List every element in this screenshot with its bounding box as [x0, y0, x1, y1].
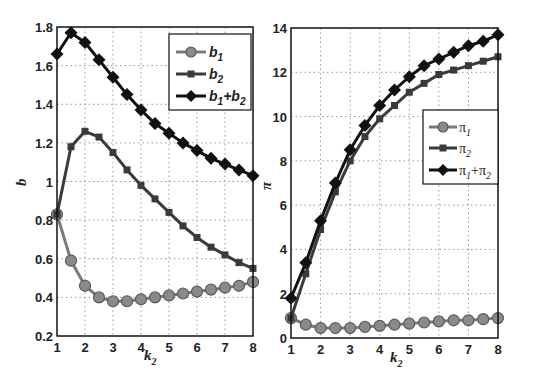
right-tick-labels: 1234567802468101214	[273, 21, 502, 357]
data-point	[447, 46, 460, 59]
x-tick-label: 7	[465, 342, 472, 357]
y-tick-label: 1	[46, 175, 53, 190]
left-x-axis-label: k2	[144, 347, 157, 367]
x-tick-label: 3	[347, 342, 354, 357]
data-point	[234, 280, 245, 291]
x-tick-label: 6	[193, 340, 200, 355]
x-tick-label: 2	[317, 342, 324, 357]
data-point	[180, 222, 187, 229]
data-point	[448, 315, 459, 326]
data-point	[108, 296, 119, 307]
x-tick-label: 1	[53, 340, 60, 355]
data-point	[376, 115, 383, 122]
data-point	[404, 318, 415, 329]
data-point	[82, 128, 89, 135]
data-point	[94, 292, 105, 303]
data-point	[68, 143, 75, 150]
data-point	[233, 163, 246, 176]
data-point	[330, 323, 341, 334]
data-point	[80, 280, 91, 291]
x-tick-label: 2	[81, 340, 88, 355]
data-point	[477, 35, 490, 48]
x-tick-label: 5	[165, 340, 172, 355]
data-point	[192, 286, 203, 297]
data-point	[150, 292, 161, 303]
data-point	[219, 158, 232, 171]
data-point	[206, 284, 217, 295]
y-tick-label: 1.8	[35, 20, 53, 35]
data-point	[463, 315, 474, 326]
data-point	[205, 152, 218, 165]
data-point	[391, 102, 398, 109]
data-point	[462, 39, 475, 52]
data-point	[191, 144, 204, 157]
x-tick-label: 8	[249, 340, 256, 355]
y-tick-label: 2	[280, 287, 287, 302]
x-tick-label: 6	[435, 342, 442, 357]
data-point	[421, 80, 428, 87]
left-chart: 123456780.20.40.60.811.21.41.61.8 b k2 b…	[13, 20, 260, 367]
y-tick-label: 12	[273, 65, 287, 80]
data-point	[361, 133, 368, 140]
data-point	[208, 244, 215, 251]
figure: 123456780.20.40.60.811.21.41.61.8 b k2 b…	[0, 0, 533, 392]
data-point	[136, 294, 147, 305]
y-tick-label: 10	[273, 110, 287, 125]
data-point	[236, 259, 243, 266]
data-point	[222, 251, 229, 258]
y-tick-label: 6	[280, 198, 287, 213]
y-tick-label: 0	[280, 331, 287, 346]
x-tick-label: 3	[109, 340, 116, 355]
data-point	[465, 62, 472, 69]
data-point	[194, 234, 201, 241]
data-point	[389, 319, 400, 330]
data-point	[432, 53, 445, 66]
data-point	[152, 195, 159, 202]
data-point	[96, 134, 103, 141]
left-y-axis-label: b	[13, 178, 29, 186]
data-point	[166, 209, 173, 216]
data-point	[480, 58, 487, 65]
data-point	[435, 71, 442, 78]
data-point	[124, 166, 131, 173]
right-x-axis-label: k2	[390, 349, 403, 369]
data-point	[345, 323, 356, 334]
y-tick-label: 1.2	[35, 136, 53, 151]
right-y-axis-label: π	[258, 181, 274, 190]
x-tick-label: 7	[221, 340, 228, 355]
y-tick-label: 0.8	[35, 213, 53, 228]
data-point	[178, 288, 189, 299]
data-point	[66, 255, 77, 266]
right-chart: 1234567802468101214 π k2 π1 π2 π1+π2	[258, 21, 505, 369]
data-point	[359, 321, 370, 332]
x-tick-label: 8	[494, 342, 501, 357]
left-legend: b1 b2 b1+b2	[169, 34, 251, 110]
data-point	[110, 149, 117, 156]
data-point	[164, 290, 175, 301]
data-point	[220, 282, 231, 293]
data-point	[138, 182, 145, 189]
x-tick-label: 4	[376, 342, 384, 357]
data-point	[329, 177, 342, 190]
y-tick-label: 0.4	[35, 290, 54, 305]
y-tick-label: 1.4	[35, 97, 54, 112]
right-legend: π1 π2 π1+π2	[423, 110, 498, 184]
data-point	[419, 317, 430, 328]
y-tick-label: 8	[280, 154, 287, 169]
x-tick-label: 1	[287, 342, 294, 357]
y-tick-label: 0.6	[35, 252, 53, 267]
data-point	[478, 314, 489, 325]
data-point	[315, 323, 326, 334]
data-point	[450, 67, 457, 74]
data-point	[300, 319, 311, 330]
y-tick-label: 1.6	[35, 59, 53, 74]
data-point	[433, 316, 444, 327]
y-tick-label: 14	[273, 21, 288, 36]
x-tick-label: 5	[406, 342, 413, 357]
data-point	[374, 320, 385, 331]
data-point	[122, 296, 133, 307]
y-tick-label: 0.2	[35, 329, 53, 344]
y-tick-label: 4	[280, 242, 288, 257]
data-point	[406, 89, 413, 96]
